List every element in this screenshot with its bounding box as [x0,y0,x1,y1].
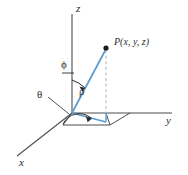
rho-segment [72,49,106,113]
x-axis-line [17,113,72,156]
theta-leader-line [48,97,69,114]
x-axis-label: x [19,157,24,168]
point-P-label: P(x, y, z) [114,37,149,47]
figure-canvas [0,0,188,175]
rho-segment-label: ρ [79,86,85,97]
phi-angle-label: ϕ [61,59,67,70]
point-P-marker [103,45,108,50]
spherical-coordinates-figure: z y x ϕ θ ρ P(x, y, z) [0,0,188,175]
y-axis-label: y [166,115,171,126]
theta-angle-label: θ [37,89,42,100]
z-axis-label: z [76,3,80,14]
